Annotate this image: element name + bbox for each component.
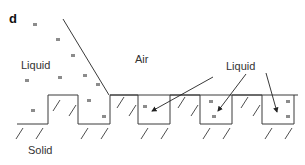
solid-surface-profile (17, 95, 298, 124)
label-liquid-left: Liquid (21, 59, 50, 71)
arrow-to-groove-1 (152, 77, 213, 111)
liquid-arrows (152, 73, 277, 112)
label-air: Air (135, 53, 148, 65)
arrow-to-groove-3 (266, 73, 277, 112)
wetting-diagram: d Liquid Air Liquid Solid (0, 0, 305, 165)
solid-hatching (16, 97, 292, 139)
label-solid: Solid (28, 144, 52, 156)
liquid-air-interface (63, 19, 109, 95)
panel-letter: d (9, 11, 17, 26)
label-liquid-right: Liquid (226, 60, 255, 72)
